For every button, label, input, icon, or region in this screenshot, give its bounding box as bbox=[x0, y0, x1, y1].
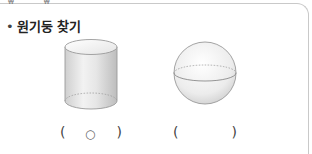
close-paren: ) bbox=[117, 124, 122, 140]
close-paren: ) bbox=[232, 124, 237, 140]
cylinder-figure bbox=[62, 38, 120, 112]
answer-slot-sphere[interactable]: ( ) bbox=[173, 124, 237, 144]
open-paren: ( bbox=[173, 124, 178, 140]
bullet: • bbox=[6, 19, 14, 34]
question-title: •원기둥 찾기 bbox=[6, 16, 81, 35]
answer-slot-cylinder[interactable]: ( ○ ) bbox=[60, 124, 122, 144]
question-title-text: 원기둥 찾기 bbox=[17, 19, 82, 34]
answer-mark: ○ bbox=[85, 127, 95, 141]
crop-marks: ₩ ₩ bbox=[8, 0, 64, 5]
sphere-figure bbox=[172, 38, 238, 108]
open-paren: ( bbox=[60, 124, 65, 140]
